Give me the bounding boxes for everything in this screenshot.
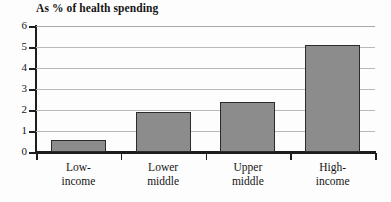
bar-lower-middle	[136, 112, 191, 152]
bar-low-income	[51, 140, 106, 152]
plot-area	[36, 26, 375, 152]
y-axis-label-0: 0	[3, 146, 27, 157]
x-tick-end-4	[375, 153, 377, 160]
x-axis-category-labels: Low-incomeLowermiddleUppermiddleHigh-inc…	[36, 161, 375, 201]
y-axis-label-5: 5	[3, 41, 27, 52]
y-axis-label-6: 6	[3, 20, 27, 31]
y-tick-1	[29, 131, 36, 133]
y-tick-6	[29, 26, 36, 28]
y-tick-5	[29, 47, 36, 49]
x-tick-0	[121, 153, 123, 160]
y-axis-label-3: 3	[3, 83, 27, 94]
y-tick-0	[29, 152, 36, 154]
x-tick-2	[290, 153, 292, 160]
y-tick-4	[29, 68, 36, 70]
x-axis-label-3: High-income	[288, 161, 378, 188]
bar-chart: As % of health spending 0123456 Low-inco…	[0, 0, 391, 202]
y-axis-label-4: 4	[3, 62, 27, 73]
chart-title: As % of health spending	[36, 2, 158, 14]
bar-high-income	[305, 45, 360, 152]
x-axis-label-2: Uppermiddle	[203, 161, 293, 188]
x-tick-end-0	[36, 153, 38, 160]
x-axis-label-0: Low-income	[33, 161, 123, 188]
y-axis-label-1: 1	[3, 125, 27, 136]
bar-upper-middle	[220, 102, 275, 152]
y-axis-label-2: 2	[3, 104, 27, 115]
y-tick-3	[29, 89, 36, 91]
x-tick-1	[206, 153, 208, 160]
y-axis-tick-labels: 0123456	[0, 0, 27, 202]
y-tick-2	[29, 110, 36, 112]
x-axis-label-1: Lowermiddle	[118, 161, 208, 188]
gridline-6	[36, 26, 375, 27]
